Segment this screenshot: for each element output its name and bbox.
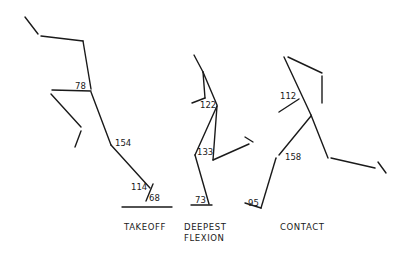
figure-deepest-flexion: 12213373: [191, 55, 253, 205]
limb-segment: [41, 36, 83, 41]
caption-deepest-flexion: DEEPESTFLEXION: [184, 222, 227, 244]
figure-takeoff: 7815411468: [25, 17, 172, 207]
caption-line: FLEXION: [184, 233, 227, 244]
joint-angle-label: 158: [285, 152, 301, 162]
joint-angle-label: 68: [149, 193, 160, 203]
caption-line: TAKEOFF: [124, 222, 166, 233]
caption-takeoff: TAKEOFF: [124, 222, 166, 233]
limb-segment: [51, 94, 81, 127]
limb-segment: [245, 137, 253, 142]
limb-segment: [194, 55, 203, 72]
limb-segment: [311, 115, 328, 158]
joint-angle-label: 112: [280, 91, 296, 101]
joint-angle-label: 122: [200, 100, 216, 110]
limb-segment: [25, 17, 38, 34]
joint-angle-label: 73: [195, 195, 206, 205]
caption-line: DEEPEST: [184, 222, 227, 233]
joint-angle-label: 133: [197, 147, 213, 157]
caption-line: CONTACT: [280, 222, 325, 233]
limb-segment: [261, 158, 276, 208]
limb-segment: [213, 144, 249, 160]
caption-contact: CONTACT: [280, 222, 325, 233]
limb-segment: [91, 92, 111, 145]
limb-segment: [279, 116, 311, 155]
limb-segment: [331, 158, 375, 168]
limb-segment: [378, 162, 386, 173]
figure-contact: 11215895: [245, 57, 386, 208]
stick-figure-diagram: 78154114681221337311215895: [0, 0, 407, 254]
limb-segment: [288, 57, 322, 73]
joint-angle-label: 78: [75, 81, 86, 91]
limb-segment: [75, 131, 81, 147]
joint-angle-label: 95: [248, 198, 259, 208]
joint-angle-label: 154: [115, 138, 131, 148]
joint-angle-label: 114: [131, 182, 147, 192]
